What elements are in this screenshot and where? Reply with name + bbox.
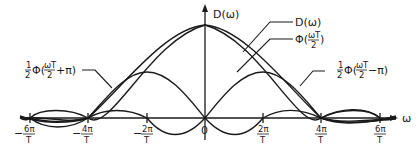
phi-left-curve — [20, 72, 396, 135]
phi-center-label: Φ( ωT 2 ) — [295, 30, 324, 50]
tick-label-6pi: 6π T — [374, 124, 386, 145]
svg-text:Φ(: Φ( — [295, 33, 308, 46]
svg-text:+π): +π) — [56, 64, 76, 77]
svg-text:2: 2 — [359, 70, 364, 80]
svg-text:T: T — [83, 135, 90, 145]
svg-text:T: T — [143, 135, 150, 145]
spectrum-diagram: D(ω) ω 0 D(ω) Φ( ωT 2 ) 1 2 Φ( ωT 2 +π) … — [0, 0, 419, 156]
svg-text:T: T — [317, 135, 324, 145]
phi-right-curve — [20, 72, 396, 135]
svg-text:2: 2 — [25, 70, 30, 80]
phi-left-label: 1 2 Φ( ωT 2 +π) — [25, 60, 76, 80]
svg-text:2π: 2π — [258, 124, 269, 134]
x-axis-label: ω — [402, 112, 411, 125]
svg-text:−: − — [14, 127, 23, 140]
svg-text:−: − — [72, 127, 81, 140]
svg-text:Φ(: Φ( — [344, 64, 357, 77]
svg-text:1: 1 — [26, 60, 31, 70]
origin-label: 0 — [201, 124, 208, 137]
svg-text:−π): −π) — [368, 64, 388, 77]
svg-text:2π: 2π — [142, 124, 153, 134]
svg-text:T: T — [25, 135, 32, 145]
tick-label-2pi: 2π T — [257, 124, 269, 145]
svg-text:T: T — [376, 135, 383, 145]
phi-left-leader — [82, 70, 112, 88]
svg-text:6π: 6π — [375, 124, 386, 134]
svg-text:2: 2 — [337, 70, 342, 80]
svg-text:−: − — [133, 127, 142, 140]
y-axis-label: D(ω) — [213, 8, 239, 21]
svg-text:1: 1 — [338, 60, 343, 70]
tick-label-neg6pi: − 6π T — [14, 124, 35, 145]
y-axis-arrow-icon — [202, 4, 208, 12]
phi-right-leader — [300, 71, 325, 86]
d-omega-label: D(ω) — [295, 16, 321, 29]
svg-text:4π: 4π — [82, 124, 93, 134]
svg-text:T: T — [259, 135, 266, 145]
svg-text:): ) — [320, 33, 324, 46]
tick-label-neg4pi: − 4π T — [72, 124, 93, 145]
tick-label-4pi: 4π T — [315, 124, 327, 145]
svg-text:4π: 4π — [316, 124, 327, 134]
phi-right-label: 1 2 Φ( ωT 2 −π) — [337, 60, 388, 80]
svg-text:2: 2 — [47, 70, 52, 80]
svg-text:2: 2 — [311, 40, 316, 50]
tick-label-neg2pi: − 2π T — [133, 124, 153, 145]
svg-text:6π: 6π — [24, 124, 35, 134]
svg-text:Φ(: Φ( — [32, 64, 45, 77]
